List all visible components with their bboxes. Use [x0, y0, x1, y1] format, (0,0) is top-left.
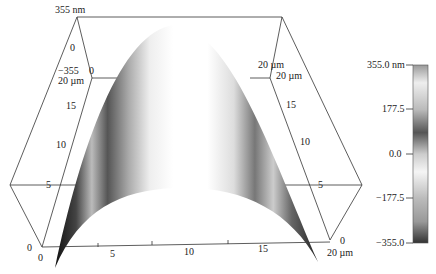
y-tick-left-back-0: 0: [89, 66, 94, 76]
z-tick-top: 355 nm: [55, 5, 85, 15]
y-tick-left-15: 15: [66, 101, 76, 111]
right-tick-10: 10: [300, 137, 310, 147]
tick-origin-b: 0: [38, 253, 43, 263]
right-tick-15: 15: [286, 100, 296, 110]
afm-3d-plot: 355 nm 0 −355 0 20 µm 15 10 5 0 0 5 10 1…: [0, 0, 436, 274]
z-tick-zero: 0: [70, 43, 75, 53]
y-tick-left-10: 10: [56, 140, 66, 150]
tick-origin-a: 0: [27, 243, 32, 253]
colorbar-tick-bottom: −355.0: [376, 238, 404, 248]
x-tick-right-0: 0: [340, 236, 345, 246]
plot-graphics: [0, 0, 436, 274]
y-tick-left-5: 5: [46, 180, 51, 190]
right-tick-5: 5: [318, 180, 323, 190]
right-tick-20um-b: 20 µm: [276, 71, 302, 81]
x-tick-20um: 20 µm: [327, 248, 353, 258]
x-tick-15: 15: [258, 244, 268, 254]
colorbar-tick-177: 177.5: [382, 104, 405, 114]
right-tick-20um-a: 20 µm: [258, 60, 284, 70]
colorbar-tick-neg177: −177.5: [376, 193, 404, 203]
colorbar-tick-0: 0.0: [389, 149, 402, 159]
colorbar: [413, 65, 428, 243]
colorbar-tick-top: 355.0 nm: [367, 60, 405, 70]
x-tick-10: 10: [184, 247, 194, 257]
x-tick-5: 5: [110, 249, 115, 259]
y-tick-left-20um: 20 µm: [58, 76, 84, 86]
